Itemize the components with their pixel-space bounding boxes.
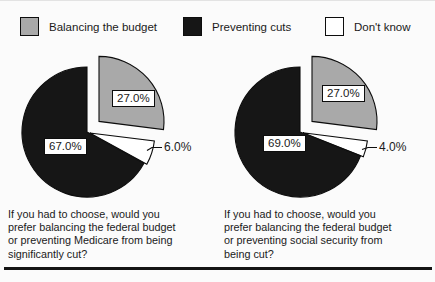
slice-label-left-balancing: 27.0% — [112, 90, 155, 107]
slice-label-left-dont-know: 6.0% — [164, 141, 191, 154]
slice-label-right-preventing: 69.0% — [263, 135, 306, 152]
pie-chart-figure: Balancing the budget Preventing cuts Don… — [0, 0, 435, 282]
caption-left: If you had to choose, would you prefer b… — [8, 208, 208, 261]
pie-chart-social-security — [235, 56, 377, 197]
bottom-rule — [4, 267, 432, 270]
slice-label-left-preventing: 67.0% — [44, 138, 87, 155]
pie-chart-medicare — [22, 56, 164, 197]
caption-right: If you had to choose, would you prefer b… — [224, 208, 424, 261]
slice-label-right-balancing: 27.0% — [322, 85, 365, 102]
slice-label-right-dont-know: 4.0% — [379, 141, 406, 154]
